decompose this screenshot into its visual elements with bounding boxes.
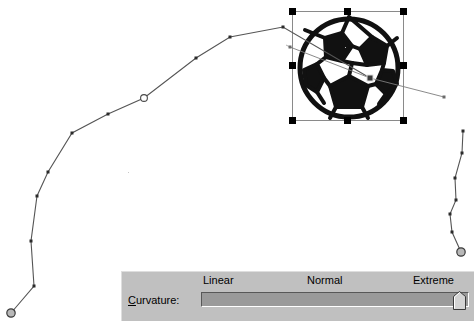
resize-handle-se[interactable] [400, 117, 407, 124]
anchor-point[interactable] [107, 113, 110, 116]
anchor-point[interactable] [451, 231, 454, 234]
anchor-point[interactable] [33, 285, 36, 288]
tangent-handle-tip-right[interactable] [443, 96, 446, 99]
tangent-extension-left [286, 45, 290, 47]
secondary-curve-path[interactable] [450, 131, 463, 252]
anchor-point[interactable] [462, 130, 465, 133]
resize-handle-w[interactable] [289, 62, 296, 69]
anchor-point[interactable] [455, 199, 458, 202]
path-endpoint-start[interactable] [7, 309, 15, 317]
anchor-point[interactable] [30, 240, 33, 243]
resize-handle-s[interactable] [344, 117, 351, 124]
resize-handle-nw[interactable] [289, 8, 296, 15]
canvas-speck [128, 172, 129, 173]
slider-track[interactable] [201, 292, 469, 307]
resize-handle-ne[interactable] [400, 8, 407, 15]
curvature-label: Curvature: [128, 294, 179, 306]
anchor-point-group[interactable] [30, 26, 285, 288]
curvature-panel[interactable]: Curvature: Linear Normal Extreme [121, 271, 474, 321]
curvature-slider[interactable] [201, 292, 469, 309]
resize-handle-sw[interactable] [289, 117, 296, 124]
editor-canvas[interactable]: Curvature: Linear Normal Extreme [0, 0, 474, 328]
slider-tick-normal: Normal [307, 274, 342, 287]
slider-tick-extreme: Extreme [413, 274, 454, 287]
curvature-label-accelerator: C [128, 294, 136, 306]
anchor-point[interactable] [71, 132, 74, 135]
slider-thumb-glyph [453, 291, 466, 310]
anchor-point[interactable] [282, 26, 285, 29]
smooth-node[interactable] [141, 95, 148, 102]
resize-handle-n[interactable] [344, 8, 351, 15]
anchor-point[interactable] [461, 152, 464, 155]
slider-thumb[interactable] [453, 291, 466, 310]
anchor-point[interactable] [36, 195, 39, 198]
anchor-point[interactable] [229, 36, 232, 39]
selection-bounding-box[interactable] [292, 11, 404, 121]
anchor-point[interactable] [454, 177, 457, 180]
slider-tick-linear: Linear [203, 274, 234, 287]
secondary-anchor-group[interactable] [449, 130, 465, 234]
anchor-point[interactable] [449, 213, 452, 216]
anchor-point[interactable] [195, 57, 198, 60]
anchor-point[interactable] [47, 171, 50, 174]
path-endpoint-end[interactable] [457, 248, 465, 256]
resize-handle-e[interactable] [400, 62, 407, 69]
curvature-label-rest: urvature: [136, 294, 179, 306]
